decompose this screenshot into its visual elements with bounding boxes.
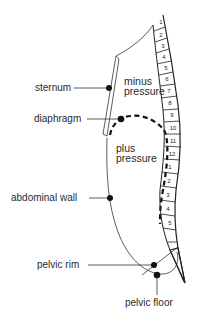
sternum-shape (103, 56, 119, 136)
abdominal-wall-label: abdominal wall (11, 193, 77, 203)
svg-text:4: 4 (162, 54, 166, 60)
svg-text:5: 5 (164, 65, 168, 71)
svg-text:11: 11 (170, 138, 177, 144)
pelvic-floor-label: pelvic floor (125, 298, 173, 308)
svg-text:4: 4 (166, 206, 170, 212)
svg-text:2: 2 (159, 32, 163, 38)
pelvic-floor-dot (154, 272, 161, 279)
abdominal-wall-dot (107, 195, 113, 201)
svg-text:10: 10 (170, 125, 177, 131)
svg-text:5: 5 (168, 220, 172, 226)
diaphragm-dashed-line (110, 116, 167, 224)
svg-text:9: 9 (170, 112, 174, 118)
svg-text:2: 2 (167, 178, 171, 184)
svg-text:1: 1 (159, 19, 163, 25)
pelvic-rim-label: pelvic rim (37, 260, 79, 270)
trunk-diagram: 1 2 3 4 5 6 7 8 9 10 11 12 1 2 3 4 5 (0, 0, 205, 325)
vertebra-numbers: 1 2 3 4 5 6 7 8 9 10 11 12 1 2 3 4 5 (159, 19, 177, 226)
svg-text:3: 3 (161, 43, 165, 49)
svg-text:1: 1 (168, 164, 172, 170)
plus-pressure-zone: plus pressure (116, 143, 157, 163)
chest-outline (116, 25, 153, 56)
minus-pressure-zone: minus pressure (124, 76, 165, 96)
svg-text:3: 3 (166, 192, 170, 198)
minus-pressure-line2: pressure (124, 86, 165, 96)
sternum-dot (106, 85, 112, 91)
svg-text:7: 7 (167, 88, 171, 94)
svg-text:8: 8 (168, 100, 172, 106)
sternum-label: sternum (35, 83, 71, 93)
svg-text:6: 6 (165, 76, 169, 82)
plus-pressure-line2: pressure (116, 153, 157, 163)
diaphragm-dot (118, 116, 125, 123)
pelvic-rim-dot (151, 262, 157, 268)
svg-text:12: 12 (169, 151, 176, 157)
diaphragm-label: diaphragm (34, 114, 81, 124)
